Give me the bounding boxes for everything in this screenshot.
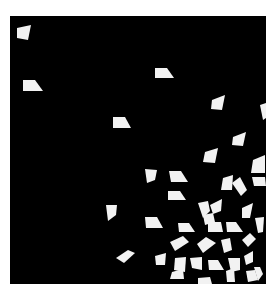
white-shape <box>198 277 212 284</box>
white-shape <box>208 222 223 232</box>
white-shape <box>252 177 266 186</box>
white-shape <box>174 257 186 272</box>
scattered-shapes-image <box>0 0 273 290</box>
